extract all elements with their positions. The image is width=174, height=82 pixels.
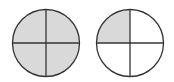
fraction-circles-diagram — [0, 0, 174, 82]
circle-one-quarter-shaded — [97, 10, 164, 77]
circle-fully-shaded — [13, 10, 80, 77]
